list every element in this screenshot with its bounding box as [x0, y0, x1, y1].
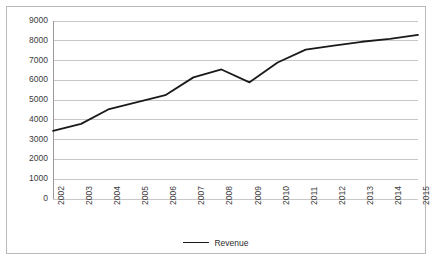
legend-line-swatch — [183, 242, 209, 243]
chart-legend: Revenue — [7, 235, 425, 248]
x-tick-label: 2012 — [338, 186, 347, 205]
y-tick-label: 6000 — [29, 75, 48, 84]
legend-item-revenue: Revenue — [183, 238, 248, 248]
data-series — [53, 35, 418, 131]
y-tick-label: 0 — [43, 194, 48, 203]
x-tick-label: 2007 — [197, 186, 206, 205]
y-tick-label: 8000 — [29, 36, 48, 45]
y-tick-label: 7000 — [29, 56, 48, 65]
x-tick-label: 2009 — [254, 186, 263, 205]
x-tick-label: 2002 — [57, 186, 66, 205]
x-tick-label: 2008 — [225, 186, 234, 205]
x-tick-label: 2011 — [310, 187, 319, 205]
y-tick-label: 2000 — [29, 154, 48, 163]
legend-label: Revenue — [214, 238, 248, 248]
x-tick-label: 2015 — [422, 186, 431, 205]
x-tick-label: 2005 — [141, 186, 150, 205]
chart-plot-area: 0100020003000400050006000700080009000 20… — [7, 7, 425, 253]
x-tick-label: 2004 — [113, 186, 122, 205]
y-tick-label: 9000 — [29, 16, 48, 25]
y-tick-label: 4000 — [29, 115, 48, 124]
x-tick-label: 2003 — [85, 186, 94, 205]
y-tick-label: 5000 — [29, 95, 48, 104]
x-tick-label: 2010 — [282, 186, 291, 205]
series-line-revenue — [53, 35, 418, 131]
line-chart-canvas — [7, 7, 425, 253]
y-tick-label: 3000 — [29, 135, 48, 144]
x-tick-label: 2013 — [366, 186, 375, 205]
chart-frame: 0100020003000400050006000700080009000 20… — [6, 6, 426, 254]
x-tick-label: 2014 — [394, 186, 403, 205]
x-tick-label: 2006 — [169, 186, 178, 205]
y-tick-label: 1000 — [29, 174, 48, 183]
